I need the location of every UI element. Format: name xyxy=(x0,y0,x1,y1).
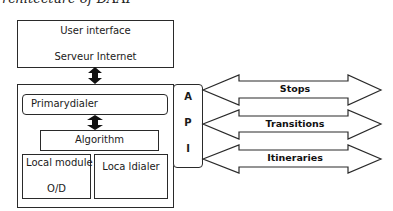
stops-label: Stops xyxy=(280,83,310,94)
connector-arrows xyxy=(0,0,393,211)
itineraries-label: Itineraries xyxy=(267,152,323,163)
double-arrow-icon-inner xyxy=(87,115,103,130)
double-arrow-icon-top xyxy=(88,67,102,84)
transitions-label: Transitions xyxy=(266,118,325,129)
